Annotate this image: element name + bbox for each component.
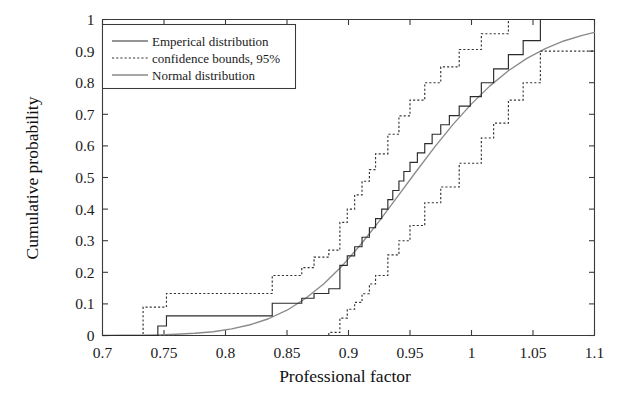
- chart-figure: 0.70.750.80.850.90.9511.051.1 00.10.20.3…: [0, 0, 627, 402]
- series-confidence-lower: [103, 51, 595, 335]
- legend-label-confidence: confidence bounds, 95%: [152, 51, 280, 66]
- y-tick-label: 0.9: [75, 43, 95, 60]
- x-tick-label: 0.9: [339, 344, 359, 361]
- y-tick-label: 0.8: [75, 74, 95, 91]
- y-tick-label: 0: [87, 327, 95, 344]
- x-tick-label: 1.05: [519, 344, 546, 361]
- x-tick-label: 1.1: [585, 344, 604, 361]
- x-axis-title: Professional factor: [279, 366, 411, 386]
- x-tick-label: 0.95: [396, 344, 423, 361]
- x-tick-label: 0.85: [273, 344, 300, 361]
- x-tick-label: 0.7: [93, 344, 113, 361]
- y-axis-title: Cumulative probability: [22, 96, 42, 259]
- x-tick-label: 1: [468, 344, 476, 361]
- x-tick-label: 0.75: [150, 344, 177, 361]
- chart-legend: Emperical distribution confidence bounds…: [103, 25, 296, 89]
- y-tick-label: 0.2: [75, 264, 94, 281]
- x-tick-label: 0.8: [216, 344, 236, 361]
- y-axis-tick-labels: 00.10.20.30.40.50.60.70.80.91: [75, 11, 95, 344]
- y-tick-label: 0.4: [75, 201, 95, 218]
- y-tick-label: 1: [87, 11, 95, 28]
- y-tick-label: 0.7: [75, 106, 95, 123]
- cumulative-probability-chart: 0.70.750.80.850.90.9511.051.1 00.10.20.3…: [0, 0, 627, 402]
- legend-label-normal: Normal distribution: [152, 68, 255, 83]
- y-tick-label: 0.5: [75, 169, 95, 186]
- y-tick-label: 0.1: [75, 295, 94, 312]
- legend-label-empirical: Emperical distribution: [152, 34, 269, 49]
- y-tick-label: 0.3: [75, 232, 95, 249]
- y-tick-label: 0.6: [75, 137, 95, 154]
- x-axis-tick-labels: 0.70.750.80.850.90.9511.051.1: [93, 344, 604, 361]
